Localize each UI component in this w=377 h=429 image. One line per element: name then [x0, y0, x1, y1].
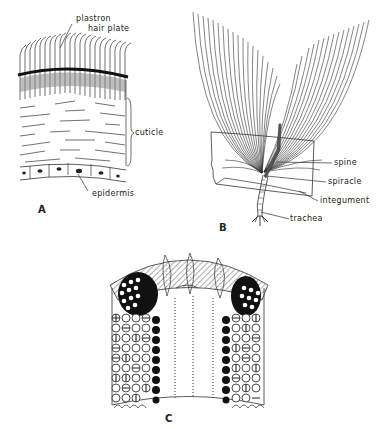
panel-a-drawing: [18, 24, 134, 191]
label-hair-plate: hair plate: [88, 24, 129, 33]
label-trachea: trachea: [290, 214, 323, 223]
label-plastron: plastron: [76, 14, 111, 23]
panel-letter-b: B: [219, 222, 227, 233]
label-cuticle: cuticle: [135, 128, 163, 137]
panel-c-drawing: [110, 253, 268, 408]
label-spiracle: spiracle: [328, 177, 362, 186]
label-integument: integument: [320, 196, 369, 205]
plastron-hairs: [20, 33, 131, 100]
panel-letter-a: A: [38, 204, 46, 215]
panel-letter-c: C: [165, 413, 172, 424]
panel-b-drawing: [193, 12, 369, 226]
label-epidermis: epidermis: [92, 189, 134, 198]
label-spine: spine: [334, 158, 357, 167]
